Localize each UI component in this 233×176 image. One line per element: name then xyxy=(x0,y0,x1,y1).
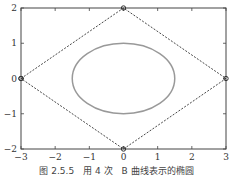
x-tick-label: −2 xyxy=(49,152,62,162)
control-polygon xyxy=(21,8,226,149)
y-tick-label: −1 xyxy=(4,109,17,119)
x-tick-label: 2 xyxy=(189,152,195,162)
y-tick-label: 1 xyxy=(11,38,17,48)
figure-caption: 图 2.5.5 用 4 次 B 曲线表示的椭圆 xyxy=(0,164,233,176)
x-tick-label: −1 xyxy=(83,152,96,162)
y-tick-label: −2 xyxy=(4,144,17,154)
y-tick-label: 2 xyxy=(11,3,17,13)
axes-frame xyxy=(21,8,226,149)
ellipse-curve xyxy=(72,43,175,114)
y-tick-label: 0 xyxy=(11,74,17,84)
x-tick-label: 1 xyxy=(155,152,161,162)
chart: −3−2−10123−2−1012 xyxy=(0,0,233,176)
x-tick-label: 0 xyxy=(121,152,127,162)
plot-area: −3−2−10123−2−1012 xyxy=(4,3,229,162)
x-tick-label: 3 xyxy=(223,152,229,162)
